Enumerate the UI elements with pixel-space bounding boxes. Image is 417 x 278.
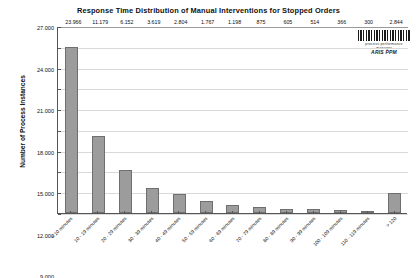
x-axis-tick: 10 - 19 minutes (84, 214, 111, 276)
bar-value-label: 366 (337, 19, 346, 25)
bar[interactable]: 1.767 (200, 201, 213, 213)
plot-area: 03.0006.0009.00012.00015.00018.00021.000… (57, 27, 407, 214)
x-axis-tick: 50 - 59 minutes (192, 214, 219, 276)
x-axis-tick-mark (97, 211, 98, 214)
bar-slot: 11.179 (85, 26, 112, 213)
y-axis-tick-label: 18.000 (37, 150, 54, 156)
x-axis-tick-mark (70, 211, 71, 214)
x-axis-tick: 110 - 119 minutes (353, 214, 380, 276)
y-axis-tick-label: 27.000 (37, 25, 54, 31)
bar-value-label: 6.152 (120, 19, 133, 25)
bar-value-label: 23.966 (65, 19, 81, 25)
bar-slot: 1.198 (220, 26, 247, 213)
bar-slot: 6.152 (112, 26, 139, 213)
bar[interactable]: 11.179 (92, 136, 105, 213)
bar-slot: 300 (354, 26, 381, 213)
bar-slot: 514 (300, 26, 327, 213)
x-axis-tick-labels: < 10 minutes10 - 19 minutes20 - 29 minut… (57, 214, 407, 276)
x-axis-tick: > 120 (380, 214, 407, 276)
bar-value-label: 1.198 (228, 19, 241, 25)
x-axis-tick-mark (232, 211, 233, 214)
x-axis-tick-mark (205, 211, 206, 214)
x-axis-tick-mark (313, 211, 314, 214)
bar[interactable]: 23.966 (65, 47, 78, 213)
x-axis-tick-mark (340, 211, 341, 214)
x-axis-tick-label: < 10 minutes (51, 216, 74, 239)
bar-slot: 2.844 (381, 26, 408, 213)
x-axis-tick: 70 - 79 minutes (245, 214, 272, 276)
x-axis-tick: 60 - 69 minutes (219, 214, 246, 276)
y-axis-tick-label: 21.000 (37, 108, 54, 114)
x-axis-tick-mark (178, 211, 179, 214)
x-axis-tick-mark (286, 211, 287, 214)
bars-layer: 23.96611.1796.1523.6192.8041.7671.198875… (58, 26, 408, 213)
x-axis-tick: 40 - 49 minutes (165, 214, 192, 276)
bar-value-label: 514 (310, 19, 319, 25)
bar[interactable]: 2.844 (388, 193, 401, 213)
bar-value-label: 605 (283, 19, 292, 25)
bar-slot: 366 (327, 26, 354, 213)
bar-value-label: 1.767 (201, 19, 214, 25)
bar-value-label: 300 (364, 19, 373, 25)
bar-slot: 605 (273, 26, 300, 213)
x-axis-tick-mark (259, 211, 260, 214)
x-axis-tick-mark (124, 211, 125, 214)
y-axis-tick-label: 9.000 (40, 274, 54, 278)
bar[interactable]: 300 (361, 211, 374, 213)
y-axis-tick-label: 24.000 (37, 67, 54, 73)
bar[interactable]: 6.152 (119, 170, 132, 213)
x-axis-tick-mark (151, 211, 152, 214)
x-axis-tick: < 10 minutes (57, 214, 84, 276)
y-axis-tick-label: 15.000 (37, 191, 54, 197)
bar-slot: 2.804 (166, 26, 193, 213)
chart-title: Response Time Distribution of Manual Int… (0, 6, 417, 15)
y-axis-label: Number of Process Instances (19, 52, 26, 192)
x-axis-tick: 30 - 39 minutes (138, 214, 165, 276)
bar[interactable]: 3.619 (146, 188, 159, 213)
bar[interactable]: 1.198 (226, 205, 239, 213)
bar[interactable]: 605 (280, 209, 293, 213)
bar-value-label: 2.804 (174, 19, 187, 25)
bar-value-label: 11.179 (92, 19, 108, 25)
bar-value-label: 2.844 (389, 19, 402, 25)
bar-slot: 1.767 (193, 26, 220, 213)
x-axis-tick-label: > 120 (385, 216, 397, 228)
bar[interactable]: 514 (307, 209, 320, 213)
bar[interactable]: 366 (334, 210, 347, 213)
x-axis-tick: 20 - 29 minutes (111, 214, 138, 276)
bar-slot: 875 (246, 26, 273, 213)
bar[interactable]: 875 (253, 207, 266, 213)
bar-value-label: 3.619 (147, 19, 160, 25)
bar-value-label: 875 (257, 19, 266, 25)
bar-slot: 23.966 (58, 26, 85, 213)
x-axis-tick: 80 - 89 minutes (272, 214, 299, 276)
bar-slot: 3.619 (139, 26, 166, 213)
bar[interactable]: 2.804 (173, 194, 186, 213)
x-axis-tick: 100 - 109 minutes (326, 214, 353, 276)
x-axis-tick-mark (367, 211, 368, 214)
chart-container: Response Time Distribution of Manual Int… (0, 0, 417, 278)
x-axis-tick-mark (394, 211, 395, 214)
